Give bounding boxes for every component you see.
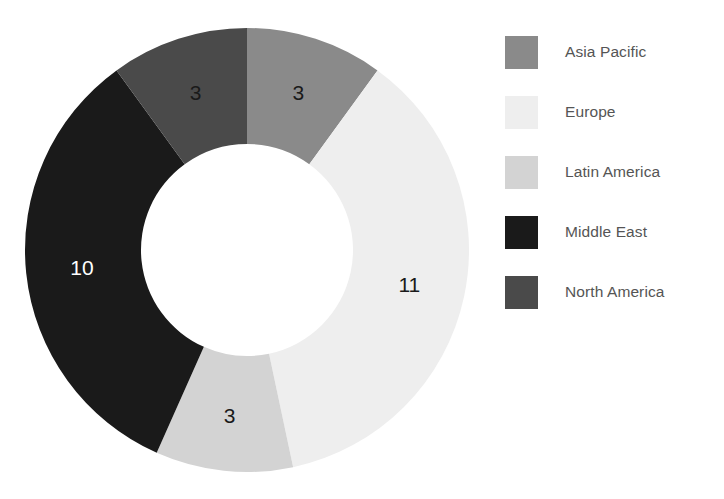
legend-item[interactable]: Asia Pacific [505, 22, 720, 82]
donut-slice-label: 11 [398, 273, 420, 296]
legend-item[interactable]: Middle East [505, 202, 720, 262]
legend-item-label: North America [565, 283, 665, 301]
donut-slice-label: 3 [224, 404, 236, 427]
legend-item[interactable]: North America [505, 262, 720, 322]
legend-item[interactable]: Europe [505, 82, 720, 142]
legend-item-label: Latin America [565, 163, 660, 181]
donut-slice-label: 10 [70, 256, 93, 279]
donut-slices [25, 28, 469, 472]
legend-item[interactable]: Latin America [505, 142, 720, 202]
donut-plot-area: 3113103 [0, 0, 500, 499]
legend-swatch-icon [505, 216, 538, 249]
legend-swatch-icon [505, 276, 538, 309]
legend-swatch-icon [505, 36, 538, 69]
legend-swatch-icon [505, 156, 538, 189]
donut-slice-label: 3 [190, 81, 202, 104]
legend-swatch-icon [505, 96, 538, 129]
donut-chart: 3113103 Asia PacificEuropeLatin AmericaM… [0, 0, 724, 499]
donut-svg: 3113103 [0, 0, 500, 499]
chart-legend: Asia PacificEuropeLatin AmericaMiddle Ea… [505, 22, 720, 322]
legend-item-label: Asia Pacific [565, 43, 646, 61]
legend-item-label: Europe [565, 103, 616, 121]
legend-item-label: Middle East [565, 223, 647, 241]
donut-slice-label: 3 [292, 81, 304, 104]
